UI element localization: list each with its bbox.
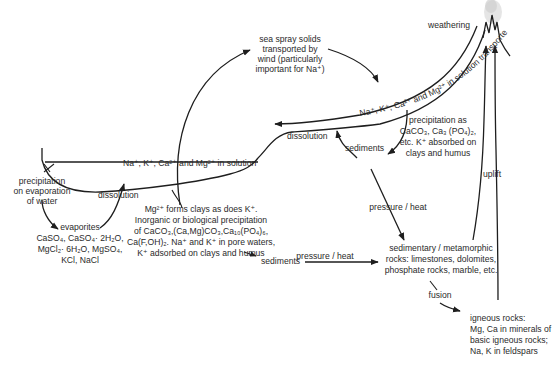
svg-text:precipitation: precipitation (19, 176, 66, 186)
ocean-basin (42, 148, 258, 192)
svg-text:basic igneous rocks;: basic igneous rocks; (470, 335, 548, 345)
ocean-precipitation-label: Mg²⁺ forms clays as does K⁺. Inorganic o… (127, 204, 275, 258)
evaporation-label: precipitation on evaporation of water (14, 176, 71, 206)
rivers-label: Na⁺, K⁺, Ca²⁺ and Mg²⁺ in solution trans… (0, 0, 509, 118)
pressure-heat-lower-label: pressure / heat (296, 251, 354, 261)
pressure-heat-upper-label: pressure / heat (369, 202, 427, 212)
svg-text:etc. K⁺ absorbed on: etc. K⁺ absorbed on (400, 137, 477, 147)
svg-text:on evaporation: on evaporation (14, 186, 71, 196)
sea-spray-label: sea spray solids transported by wind (pa… (255, 34, 324, 74)
element-cycle-diagram: weathering Na⁺, K⁺, Ca²⁺ and Mg²⁺ in sol… (0, 0, 554, 367)
svg-text:precipitation as: precipitation as (409, 115, 467, 125)
svg-text:sea spray solids: sea spray solids (259, 34, 321, 44)
svg-text:wind (particularly: wind (particularly (257, 54, 323, 64)
svg-text:igneous rocks:: igneous rocks: (470, 313, 525, 323)
svg-text:Ca(F,OH)₂. Na⁺ and K⁺ in pore: Ca(F,OH)₂. Na⁺ and K⁺ in pore waters, (127, 237, 275, 247)
dissolution-upper-label: dissolution (287, 131, 328, 141)
sediments-upper-label: sediments (345, 143, 384, 153)
svg-text:rocks: limestones, dolomites,: rocks: limestones, dolomites, (386, 254, 496, 264)
sediments-lower-label: sediments (261, 256, 300, 266)
svg-text:CaCO₃, Ca₃ (PO₄)₂,: CaCO₃, Ca₃ (PO₄)₂, (400, 126, 476, 136)
svg-text:sedimentary / metamorphic: sedimentary / metamorphic (389, 243, 493, 253)
svg-text:KCl, NaCl: KCl, NaCl (61, 255, 99, 265)
sea-spray-to-river-arrow (328, 49, 378, 82)
svg-text:of water: of water (27, 196, 58, 206)
svg-text:phosphate rocks, marble, etc.: phosphate rocks, marble, etc. (385, 265, 498, 275)
sedimentary-rocks-label: sedimentary / metamorphic rocks: limesto… (385, 243, 498, 275)
evaporites-title: evaporites (60, 222, 100, 232)
fusion-label: fusion (429, 290, 452, 300)
svg-text:Na, K in feldspars: Na, K in feldspars (470, 346, 538, 356)
svg-text:important for Na⁺): important for Na⁺) (255, 64, 324, 74)
uplift-label: uplift (483, 169, 502, 179)
weathering-label: weathering (427, 20, 470, 30)
svg-text:Mg, Ca in minerals of: Mg, Ca in minerals of (470, 324, 552, 334)
ocean-solution-label: Na⁺, K⁺, Ca²⁺ and Mg²⁺ in solution (123, 158, 256, 168)
svg-text:CaSO₄, CaSO₄· 2H₂O,: CaSO₄, CaSO₄· 2H₂O, (36, 233, 123, 243)
svg-text:MgCl₂· 6H₂O, MgSO₄,: MgCl₂· 6H₂O, MgSO₄, (38, 244, 123, 254)
igneous-rocks-label: igneous rocks: Mg, Ca in minerals of bas… (470, 313, 552, 356)
svg-text:of CaCO₃,(Ca,Mg)CO₃,Ca₁₀(PO₄)₆: of CaCO₃,(Ca,Mg)CO₃,Ca₁₀(PO₄)₆, (134, 226, 268, 236)
svg-text:Inorganic or biological precip: Inorganic or biological precipitation (135, 215, 268, 225)
evaporites-list: CaSO₄, CaSO₄· 2H₂O, MgCl₂· 6H₂O, MgSO₄, … (36, 233, 123, 265)
svg-text:transported by: transported by (263, 44, 319, 54)
svg-text:K⁺ adsorbed on clays and humus: K⁺ adsorbed on clays and humus (137, 248, 264, 258)
svg-text:Mg²⁺ forms clays as does K⁺.: Mg²⁺ forms clays as does K⁺. (145, 204, 258, 214)
fusion-stem (430, 281, 437, 290)
fusion-arrow (440, 303, 460, 311)
river-precipitation-label: precipitation as CaCO₃, Ca₃ (PO₄)₂, etc.… (400, 115, 477, 158)
dissolution-lower-label: dissolution (98, 190, 139, 200)
svg-text:clays and humus: clays and humus (406, 148, 471, 158)
